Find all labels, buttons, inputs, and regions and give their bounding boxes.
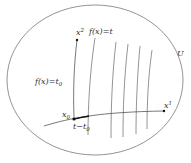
region-U-label: U — [177, 49, 184, 58]
x1-axis-label: x1 — [164, 100, 172, 110]
level-curve — [88, 38, 95, 135]
x2-axis-arrowhead — [76, 39, 78, 41]
level-curve — [147, 50, 152, 129]
level-curve — [136, 46, 140, 134]
base-level-curve-label: f(x)=t0 — [34, 77, 63, 87]
x2-axis — [74, 40, 77, 118]
segment-label: t−t0 — [73, 122, 90, 132]
point-x0-label: x0 — [62, 110, 71, 120]
level-curve-label: f(x)=t — [88, 27, 113, 36]
level-curve — [123, 44, 128, 137]
level-curve — [111, 42, 116, 138]
level-set-diagram: U x2 f(x)=t f(x)=t0 x1 x0 t−t0 — [0, 0, 191, 163]
point-x0 — [72, 117, 75, 120]
x2-axis-label: x2 — [76, 27, 85, 37]
x1-axis-arrowhead — [163, 110, 165, 112]
segment-t-minus-t0 — [74, 116, 89, 119]
